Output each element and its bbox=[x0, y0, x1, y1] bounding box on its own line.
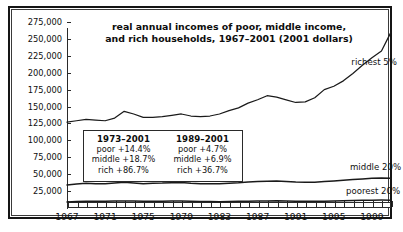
x-axis-tick-label: 1995 bbox=[322, 211, 345, 222]
stat-row: poor +14.4% bbox=[84, 144, 163, 154]
stat-row: rich +86.7% bbox=[84, 165, 163, 175]
x-axis-labels: 196719711975197919831987199119951999 bbox=[67, 211, 391, 225]
y-axis-tick-label: 225,000 bbox=[28, 51, 62, 61]
y-axis-tick-label: 25,000 bbox=[33, 186, 62, 196]
y-axis-tick bbox=[67, 39, 71, 40]
y-axis-tick bbox=[67, 140, 71, 141]
y-axis-tick bbox=[67, 90, 71, 91]
series-label-richest: richest 5% bbox=[351, 57, 397, 67]
stat-column-1989-2001: 1989–2001 poor +4.7% middle +6.9% rich +… bbox=[163, 131, 242, 181]
y-axis-tick-label: 125,000 bbox=[28, 118, 62, 128]
stat-row: poor +4.7% bbox=[163, 144, 242, 154]
y-axis-tick-label: 175,000 bbox=[28, 85, 62, 95]
x-axis-tick-label: 1979 bbox=[170, 211, 193, 222]
y-axis-tick-label: 275,000 bbox=[28, 17, 62, 27]
statistics-box: 1973–2001 poor +14.4% middle +18.7% rich… bbox=[83, 130, 243, 182]
y-axis-tick bbox=[67, 107, 71, 108]
y-axis-tick bbox=[67, 123, 71, 124]
series-line-richest-5- bbox=[67, 32, 391, 122]
series-label-middle: middle 20% bbox=[350, 162, 401, 172]
y-axis-tick bbox=[67, 157, 71, 158]
y-axis-tick-label: 100,000 bbox=[28, 135, 62, 145]
y-axis-tick bbox=[67, 191, 71, 192]
series-line-poorest-20- bbox=[67, 200, 391, 202]
stat-column-1973-2001: 1973–2001 poor +14.4% middle +18.7% rich… bbox=[84, 131, 163, 181]
x-axis-tick-label: 1967 bbox=[55, 211, 78, 222]
x-axis-tick-label: 1999 bbox=[360, 211, 383, 222]
y-axis-tick-label: 200,000 bbox=[28, 68, 62, 78]
y-axis-tick bbox=[67, 56, 71, 57]
y-axis-tick-label: 250,000 bbox=[28, 34, 62, 44]
y-axis-tick bbox=[67, 174, 71, 175]
x-axis-tick-label: 1975 bbox=[132, 211, 155, 222]
chart-frame: 275,000250,000225,000200,000175,000150,0… bbox=[8, 6, 392, 219]
stat-heading: 1989–2001 bbox=[163, 134, 242, 144]
stat-row: middle +6.9% bbox=[163, 154, 242, 164]
x-axis-tick-label: 1987 bbox=[246, 211, 269, 222]
y-axis-tick-label: 150,000 bbox=[28, 102, 62, 112]
stat-row: rich +36.7% bbox=[163, 165, 242, 175]
series-label-poorest: poorest 20% bbox=[346, 186, 400, 196]
stat-heading: 1973–2001 bbox=[84, 134, 163, 144]
stat-row: middle +18.7% bbox=[84, 154, 163, 164]
x-axis-tick bbox=[392, 201, 393, 207]
y-axis-tick-label: 75,000 bbox=[33, 152, 62, 162]
x-axis-tick-label: 1971 bbox=[93, 211, 116, 222]
y-axis-tick bbox=[67, 73, 71, 74]
x-axis-tick-label: 1991 bbox=[284, 211, 307, 222]
y-axis-labels: 275,000250,000225,000200,000175,000150,0… bbox=[10, 8, 62, 232]
x-axis-tick-label: 1983 bbox=[208, 211, 231, 222]
y-axis-tick-label: 50,000 bbox=[33, 169, 62, 179]
y-axis-tick bbox=[67, 22, 71, 23]
